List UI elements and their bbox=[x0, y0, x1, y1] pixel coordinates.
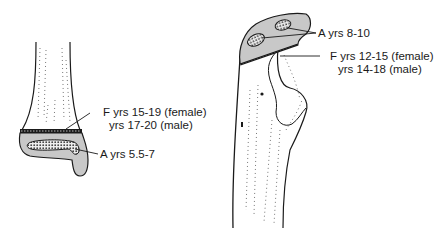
right-fusion-label-male: yrs 14-18 (male) bbox=[338, 63, 422, 76]
left-fusion-label-male: yrs 17-20 (male) bbox=[109, 119, 193, 132]
right-bone bbox=[233, 13, 320, 228]
bone-ossification-diagram bbox=[0, 0, 441, 241]
right-appearance-label: A yrs 8-10 bbox=[318, 27, 370, 40]
left-appearance-label: A yrs 5.5-7 bbox=[100, 148, 155, 161]
left-fusion-label-female: F yrs 15-19 (female) bbox=[103, 106, 207, 119]
left-bone bbox=[19, 42, 98, 176]
right-fusion-label-female: F yrs 12-15 (female) bbox=[330, 50, 434, 63]
